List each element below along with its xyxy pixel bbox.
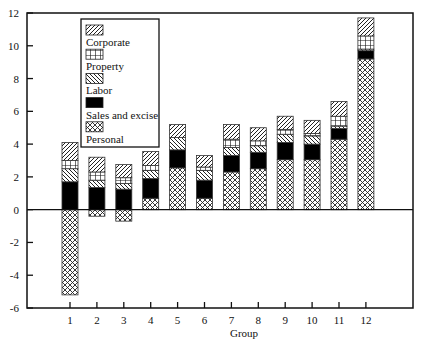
bar-segment-personal <box>143 198 159 209</box>
bar-segment-labor <box>89 180 105 187</box>
chart-svg: -6-4-2024681012123456789101112Group Corp… <box>0 0 428 354</box>
x-tick-label: 3 <box>121 314 127 326</box>
legend-label: Property <box>86 60 124 72</box>
bar-segment-sales-and-excise <box>89 188 105 210</box>
bar-group-12 <box>358 18 374 210</box>
x-tick-label: 8 <box>256 314 262 326</box>
bar-segment-sales-and-excise <box>197 180 213 198</box>
legend-swatch-property <box>86 49 103 59</box>
y-tick-label: 4 <box>14 138 20 150</box>
y-tick-label: 2 <box>14 171 20 183</box>
bar-segment-labor <box>143 170 159 178</box>
legend-swatch-labor <box>86 73 103 83</box>
y-tick-label: 12 <box>8 7 19 19</box>
bar-segment-labor <box>116 183 132 189</box>
bar-segment-corporate <box>170 124 186 137</box>
x-tick-label: 9 <box>282 314 288 326</box>
bar-segment-property <box>143 165 159 170</box>
y-tick-label: -2 <box>10 236 19 248</box>
bar-segment-property <box>89 172 105 180</box>
bar-segment-sales-and-excise <box>170 150 186 168</box>
bar-group-8 <box>250 128 266 210</box>
legend-label: Labor <box>86 84 113 96</box>
legend: CorporatePropertyLaborSales and excisePe… <box>81 19 159 147</box>
bar-segment-personal <box>223 172 239 210</box>
bar-segment-property <box>116 178 132 184</box>
bar-segment-property <box>250 141 266 146</box>
bar-segment-corporate <box>250 128 266 141</box>
y-tick-label: 0 <box>14 204 20 216</box>
bar-segment-labor <box>277 134 293 142</box>
legend-swatch-sales-and-excise <box>86 98 103 108</box>
bar-segment-personal <box>62 210 78 295</box>
bar-segment-corporate <box>116 165 132 178</box>
bar-segment-sales-and-excise <box>358 51 374 59</box>
bar-segment-property <box>197 167 213 170</box>
bar-segment-property <box>358 36 374 49</box>
bar-segment-personal <box>89 210 105 217</box>
y-tick-label: 10 <box>8 40 20 52</box>
bar-segment-property <box>277 129 293 134</box>
bar-segment-personal <box>304 160 320 210</box>
x-axis-label: Group <box>230 327 259 339</box>
x-tick-label: 7 <box>229 314 235 326</box>
bar-segment-property <box>331 116 347 126</box>
bar-segment-personal <box>197 198 213 209</box>
bar-group-3 <box>116 165 132 222</box>
bar-segment-personal <box>358 59 374 210</box>
legend-swatch-corporate <box>86 25 103 35</box>
bar-segment-labor <box>197 170 213 180</box>
bar-segment-corporate <box>277 116 293 129</box>
x-tick-label: 2 <box>94 314 100 326</box>
bar-segment-labor <box>62 169 78 182</box>
bar-segment-labor <box>250 146 266 153</box>
y-tick-label: 8 <box>14 73 20 85</box>
bar-group-7 <box>223 124 239 209</box>
bar-group-4 <box>143 151 159 209</box>
bar-group-2 <box>89 157 105 216</box>
x-tick-label: 6 <box>202 314 208 326</box>
bar-segment-corporate <box>331 102 347 117</box>
bar-segment-sales-and-excise <box>143 179 159 199</box>
bar-segment-corporate <box>197 156 213 167</box>
bar-segment-sales-and-excise <box>331 129 347 140</box>
bar-segment-corporate <box>223 124 239 139</box>
bar-segment-personal <box>250 169 266 210</box>
legend-label: Personal <box>86 133 124 145</box>
bar-segment-property <box>223 139 239 147</box>
bar-segment-personal <box>277 160 293 210</box>
bar-segment-labor <box>304 136 320 144</box>
y-tick-label: 6 <box>14 105 20 117</box>
x-tick-label: 11 <box>334 314 345 326</box>
bar-segment-sales-and-excise <box>304 144 320 160</box>
bar-group-1 <box>62 142 78 294</box>
x-tick-label: 5 <box>175 314 181 326</box>
bar-segment-labor <box>223 147 239 155</box>
y-tick-label: -6 <box>10 302 20 314</box>
bar-segment-sales-and-excise <box>250 152 266 168</box>
y-tick-label: -4 <box>10 269 20 281</box>
legend-swatch-personal <box>86 122 103 132</box>
x-tick-label: 1 <box>67 314 73 326</box>
bar-group-6 <box>197 156 213 210</box>
bar-group-5 <box>170 124 186 209</box>
bar-segment-labor <box>170 138 186 150</box>
bar-group-9 <box>277 116 293 209</box>
bar-segment-corporate <box>358 18 374 36</box>
bar-segment-sales-and-excise <box>116 189 132 209</box>
bar-segment-corporate <box>62 142 78 160</box>
x-tick-label: 4 <box>148 314 154 326</box>
legend-label: Sales and excise <box>86 109 158 121</box>
bar-segment-corporate <box>89 157 105 172</box>
bar-group-10 <box>304 120 320 209</box>
bar-segment-corporate <box>143 151 159 165</box>
stacked-bar-chart: -6-4-2024681012123456789101112Group Corp… <box>0 0 428 354</box>
bar-segment-sales-and-excise <box>277 142 293 159</box>
bar-group-11 <box>331 102 347 210</box>
bar-segment-corporate <box>304 120 320 133</box>
bar-segment-personal <box>331 139 347 209</box>
bar-segment-sales-and-excise <box>223 156 239 172</box>
bar-segment-personal <box>116 210 132 221</box>
x-tick-label: 12 <box>360 314 371 326</box>
bar-segment-property <box>62 161 78 169</box>
